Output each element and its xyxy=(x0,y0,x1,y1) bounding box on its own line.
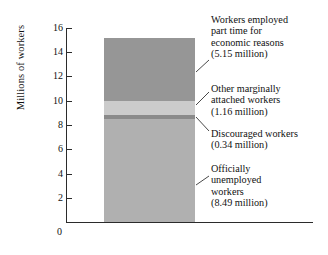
annotation-other-marginally-attached: Other marginally attached workers (1.16 … xyxy=(211,83,281,117)
annotation-discouraged-value: (0.34 million) xyxy=(211,139,298,150)
annotation-marginal-line-2: attached workers xyxy=(211,94,281,105)
annotation-unemployed-line-1: Officially xyxy=(211,163,268,174)
annotation-discouraged-workers: Discouraged workers (0.34 million) xyxy=(211,128,298,151)
annotation-part-time-economic-reasons: Workers employed part time for economic … xyxy=(211,14,288,60)
stacked-bar-chart: Millions of workers 16 14 12 10 8 6 4 2 … xyxy=(0,0,328,255)
annotation-marginal-line-1: Other marginally xyxy=(211,83,281,94)
annotation-unemployed-line-2: unemployed xyxy=(211,174,268,185)
annotation-officially-unemployed: Officially unemployed workers (8.49 mill… xyxy=(211,163,268,209)
annotation-part-time-line-1: Workers employed xyxy=(211,14,288,25)
annotation-part-time-value: (5.15 million) xyxy=(211,48,288,59)
annotation-unemployed-value: (8.49 million) xyxy=(211,197,268,208)
annotation-part-time-line-2: part time for xyxy=(211,25,288,36)
annotation-marginal-value: (1.16 million) xyxy=(211,106,281,117)
annotation-part-time-line-3: economic reasons xyxy=(211,37,288,48)
annotation-unemployed-line-3: workers xyxy=(211,186,268,197)
annotation-discouraged-line-1: Discouraged workers xyxy=(211,128,298,139)
